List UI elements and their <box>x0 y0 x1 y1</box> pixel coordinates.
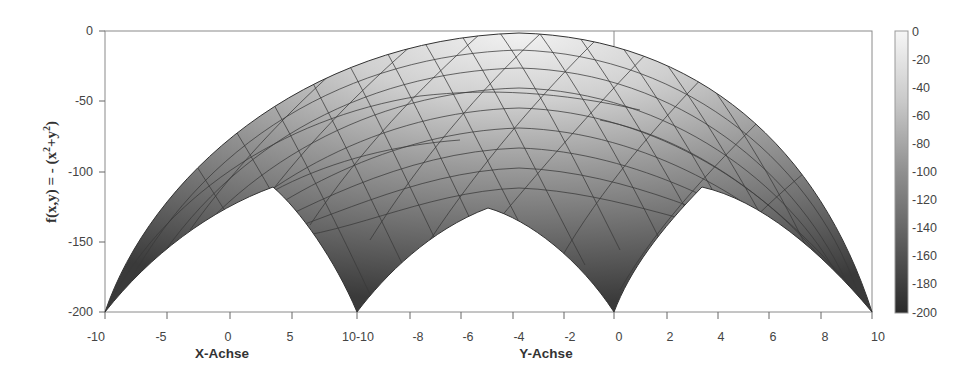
x-tick-0: 0 <box>225 330 232 344</box>
cbar-tick-200: -200 <box>912 306 937 320</box>
z-tick-150: -150 <box>68 235 93 249</box>
z-tick-50: -50 <box>75 94 93 108</box>
y-tick-8: 8 <box>822 330 829 344</box>
cbar-tick-160: -160 <box>912 249 937 263</box>
cbar-tick-180: -180 <box>912 277 937 291</box>
cbar-tick-80: -80 <box>912 137 930 151</box>
cbar-tick-0: 0 <box>912 25 919 39</box>
z-axis-label: f(x,y) = - (x2+y2) <box>41 121 60 223</box>
y-tick-neg2: -2 <box>564 330 575 344</box>
x-axis: -10 -5 0 5 10-10 X-Achse <box>87 312 374 361</box>
z-tick-0: 0 <box>86 24 93 38</box>
cbar-tick-40: -40 <box>912 81 930 95</box>
x-tick-neg5: -5 <box>155 330 166 344</box>
y-tick-neg4: -4 <box>513 330 524 344</box>
cbar-tick-120: -120 <box>912 193 937 207</box>
y-tick-2: 2 <box>667 330 674 344</box>
svg-text:f(x,y) = - (x2+y2): f(x,y) = - (x2+y2) <box>41 121 60 223</box>
z-axis: 0 -50 -100 -150 -200 <box>68 24 105 319</box>
colorbar-gradient <box>895 31 908 313</box>
y-tick-neg8: -8 <box>412 330 423 344</box>
cbar-tick-20: -20 <box>912 53 930 67</box>
z-label-part3: ) <box>43 121 60 126</box>
y-tick-4: 4 <box>718 330 725 344</box>
x-axis-title: X-Achse <box>195 346 250 361</box>
y-tick-0: 0 <box>616 330 623 344</box>
surface-plot <box>105 33 872 312</box>
surface-chart: 0 -50 -100 -150 -200 f(x,y) = - (x2+y2) … <box>0 0 969 376</box>
z-label-part1: f(x,y) = - (x <box>43 152 60 224</box>
y-tick-10: 10 <box>871 330 885 344</box>
colorbar: 0 -20 -40 -60 -80 -100 -120 -140 -160 -1… <box>895 25 937 320</box>
x-tick-5: 5 <box>287 330 294 344</box>
x-tick-10-neg10: 10-10 <box>342 330 374 344</box>
z-tick-200: -200 <box>68 305 93 319</box>
z-tick-100: -100 <box>68 165 93 179</box>
y-axis-title: Y-Achse <box>519 346 573 361</box>
y-tick-neg6: -6 <box>462 330 473 344</box>
y-tick-6: 6 <box>770 330 777 344</box>
cbar-tick-140: -140 <box>912 221 937 235</box>
cbar-tick-100: -100 <box>912 165 937 179</box>
y-axis: -8 -6 -4 -2 0 2 4 6 8 10 Y-Achse <box>410 312 885 361</box>
x-tick-neg10: -10 <box>87 330 105 344</box>
cbar-tick-60: -60 <box>912 109 930 123</box>
z-label-part2: +y <box>43 130 59 147</box>
